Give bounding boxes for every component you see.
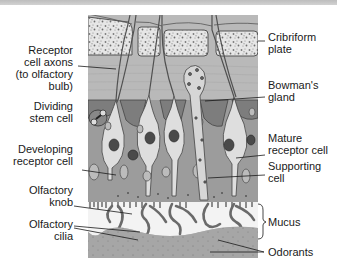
tissue [88,14,258,258]
mucus-bracket [258,204,266,239]
label-dividing-stem-cell: Dividing stem cell [30,100,73,124]
olfactory-epithelium-figure: Receptor cell axons (to olfactory bulb) … [0,0,337,270]
label-bowmans-gland: Bowman's gland [268,79,318,103]
label-mature-receptor-cell: Mature receptor cell [268,132,328,156]
label-mucus: Mucus [268,216,300,228]
label-olfactory-knob: Olfactory knob [29,184,73,208]
label-olfactory-cilia: Olfactory cilia [29,218,73,242]
label-odorants: Odorants [268,246,313,258]
label-cribriform-plate: Cribriform plate [268,31,316,55]
label-receptor-axons: Receptor cell axons (to olfactory bulb) [16,44,73,92]
label-supporting-cell: Supporting cell [268,160,321,184]
dividing-stem-cell-shape [89,110,107,126]
label-developing-receptor-cell: Developing receptor cell [13,143,73,167]
